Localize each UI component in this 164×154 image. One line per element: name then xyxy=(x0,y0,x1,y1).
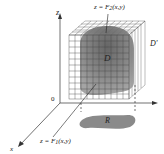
x-axis-label: x xyxy=(10,146,13,153)
origin-label: 0 xyxy=(51,96,55,103)
z-axis-label: z xyxy=(56,9,59,17)
diagram-canvas: z x 0 z = F2(x,y) z = F1(x,y) D D' R xyxy=(0,0,164,154)
box-d-prime-label: D' xyxy=(150,40,158,48)
y-axis-arrow-icon xyxy=(152,101,158,105)
top-surface-label: z = F2(x,y) xyxy=(94,4,125,11)
region-r-label: R xyxy=(105,117,110,125)
top-surface-suffix: (x,y) xyxy=(112,3,125,11)
bottom-surface-label: z = F1(x,y) xyxy=(40,138,71,145)
bottom-surface-prefix: z = F xyxy=(40,137,55,145)
solid-d-label: D xyxy=(104,54,111,63)
bottom-surface-suffix: (x,y) xyxy=(58,137,71,145)
diagram-svg xyxy=(0,0,164,154)
bottom-surface-pointer xyxy=(53,84,96,137)
top-surface-prefix: z = F xyxy=(94,3,109,11)
